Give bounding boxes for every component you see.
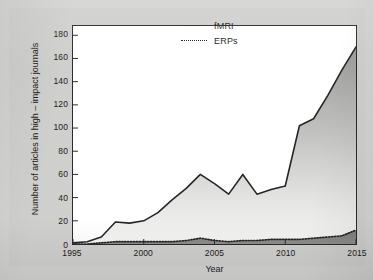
y-tick-label: 180 bbox=[54, 30, 68, 39]
y-tick-label: 60 bbox=[58, 170, 68, 179]
x-axis-title: Year bbox=[72, 264, 357, 274]
y-tick-label: 20 bbox=[58, 217, 68, 226]
chart-figure: Number of articles in high – impact jour… bbox=[9, 8, 365, 266]
legend-item-erps: ERPs bbox=[181, 33, 276, 48]
legend-dotted-line-icon bbox=[181, 36, 207, 46]
legend-label-fmri: fMRI bbox=[214, 21, 234, 31]
x-tick-label: 2005 bbox=[195, 248, 235, 258]
figure-page: Number of articles in high – impact jour… bbox=[0, 0, 373, 280]
x-tick-label: 2010 bbox=[266, 248, 306, 258]
x-tick-label: 1995 bbox=[52, 248, 92, 258]
y-tick-label: 140 bbox=[54, 77, 68, 86]
y-tick-label: 160 bbox=[54, 53, 68, 62]
x-tick-label: 2015 bbox=[337, 248, 373, 258]
chart-canvas bbox=[73, 26, 356, 244]
legend-solid-line-icon bbox=[181, 21, 207, 31]
y-tick-label: 40 bbox=[58, 194, 68, 203]
y-axis-tick-labels: 020406080100120140160180 bbox=[39, 25, 68, 245]
y-tick-label: 120 bbox=[54, 100, 68, 109]
fmri-area-fill bbox=[73, 47, 356, 244]
chart-legend: fMRI ERPs bbox=[181, 18, 276, 48]
y-tick-label: 100 bbox=[54, 123, 68, 132]
y-tick-label: 80 bbox=[58, 147, 68, 156]
x-axis-tick-labels: 19952000200520102015 bbox=[72, 248, 357, 260]
legend-label-erps: ERPs bbox=[214, 36, 238, 46]
x-tick-label: 2000 bbox=[123, 248, 163, 258]
legend-item-fmri: fMRI bbox=[181, 18, 276, 33]
plot-area bbox=[72, 25, 357, 245]
